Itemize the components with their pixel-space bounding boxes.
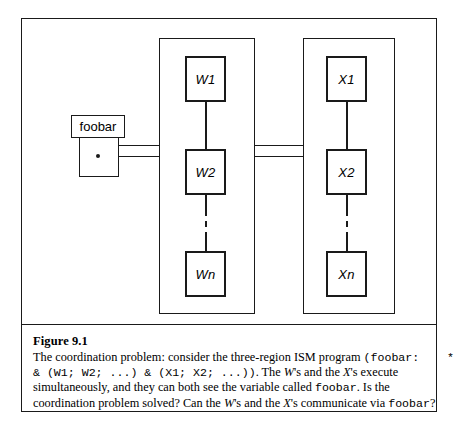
node-wn: Wn [185, 251, 226, 297]
caption-l2-x: X [343, 365, 351, 379]
link-x2-stub [346, 194, 348, 210]
node-x1: X1 [326, 56, 367, 102]
node-x2: X2 [326, 149, 367, 195]
caption-l2-d: 's and the [294, 365, 343, 379]
link-wn-stub [205, 238, 207, 252]
link-x1-x2 [346, 101, 348, 150]
node-xn: Xn [326, 251, 367, 297]
foobar-label-text: foobar [80, 119, 117, 134]
node-xn-label: Xn [338, 267, 355, 282]
caption-l2-b: . The [256, 365, 284, 379]
link-xn-stub [346, 238, 348, 252]
caption-line-4: coordination problem solved? Can the W's… [33, 396, 425, 411]
foobar-label-box: foobar [71, 115, 125, 138]
caption-line-2: & (W1; W2; ...) & (X1; X2; ...)). The W'… [33, 365, 425, 380]
caption-l4-g: ? [430, 396, 435, 410]
caption-l4-e: 's communicate via [291, 396, 389, 410]
caption-l4-w: W [224, 396, 234, 410]
caption-l2-code: & (W1; W2; ...) & (X1; X2; ...)) [33, 366, 256, 379]
caption-l2-w: W [284, 365, 294, 379]
foobar-value-marker-icon [96, 154, 100, 158]
node-w2-label: W2 [195, 165, 215, 180]
node-x2-label: X2 [338, 165, 355, 180]
caption-l1-a: The coordination problem: consider the t… [33, 350, 364, 364]
node-w1: W1 [185, 56, 226, 102]
caption-l4-code: foobar [388, 397, 430, 410]
node-x1-label: X1 [338, 72, 355, 87]
ellipsis-link-w [205, 210, 207, 238]
figure-caption: Figure 9.1 The coordination problem: con… [22, 325, 436, 411]
caption-line-3: simultaneously, and they can both see th… [33, 380, 425, 395]
node-w2: W2 [185, 149, 226, 195]
caption-l1-code: (foobar: * [364, 351, 454, 364]
figure-frame: foobar W1 W2 Wn X1 X2 Xn [21, 18, 437, 412]
link-w2-stub [205, 194, 207, 210]
diagram-canvas: foobar W1 W2 Wn X1 X2 Xn [22, 19, 436, 324]
node-wn-label: Wn [195, 267, 215, 282]
caption-l4-x: X [283, 396, 291, 410]
caption-l4-c: 's and the [234, 396, 283, 410]
ellipsis-link-x [346, 210, 348, 238]
caption-l3-c: . Is the [357, 380, 390, 394]
caption-l3-code: foobar [315, 381, 357, 394]
caption-line-1: The coordination problem: consider the t… [33, 350, 425, 365]
link-w1-w2 [205, 101, 207, 150]
node-w1-label: W1 [195, 72, 215, 87]
caption-l2-f: 's execute [351, 365, 399, 379]
caption-title: Figure 9.1 [33, 334, 425, 349]
caption-l4-a: coordination problem solved? Can the [33, 396, 224, 410]
caption-l3-a: simultaneously, and they can both see th… [33, 380, 315, 394]
